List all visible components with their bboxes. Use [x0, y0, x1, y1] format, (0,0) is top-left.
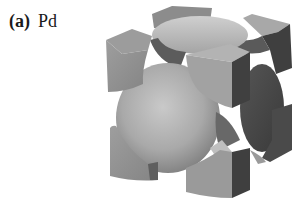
- fcc-unit-cell-diagram: [0, 0, 307, 221]
